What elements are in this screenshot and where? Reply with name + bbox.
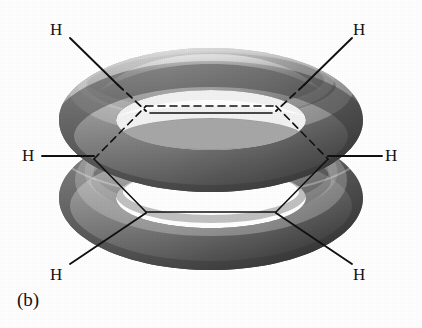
atom-label-h-mid-left: H bbox=[22, 147, 34, 164]
atom-label-h-top-left: H bbox=[50, 21, 62, 38]
atom-label-h-bottom-left: H bbox=[50, 266, 62, 283]
atom-label-h-top-right: H bbox=[353, 21, 365, 38]
atom-label-h-mid-right: H bbox=[385, 147, 397, 164]
figure-panel-caption: (b) bbox=[17, 290, 39, 309]
figure-container: H H H H H H (b) bbox=[0, 0, 422, 328]
atom-label-h-bottom-right: H bbox=[353, 266, 365, 283]
